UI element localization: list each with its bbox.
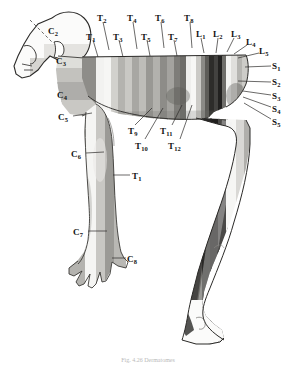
label-index: 2 xyxy=(219,33,222,40)
dermatome-label-s2: S2 xyxy=(272,78,280,87)
dermatome-label-t10: T10 xyxy=(135,142,148,151)
label-index: 8 xyxy=(134,258,137,265)
dermatome-label-c7: C7 xyxy=(73,228,83,237)
dermatome-label-t2: T2 xyxy=(97,14,106,23)
label-index: 2 xyxy=(55,30,58,37)
label-index: 1 xyxy=(138,175,141,182)
label-index: 3 xyxy=(119,36,122,43)
label-root: C xyxy=(127,254,134,264)
label-index: 11 xyxy=(166,130,172,137)
label-root: C xyxy=(73,227,80,237)
dermatome-label-c6: C6 xyxy=(71,150,81,159)
label-root: C xyxy=(48,26,55,36)
label-index: 7 xyxy=(174,36,177,43)
dermatome-figure: C2C3C4C5C6C7C8T1T2T3T4T5T6T7T8T9T10T11T1… xyxy=(0,0,296,367)
label-index: 4 xyxy=(133,17,136,24)
dermatome-label-t3: T3 xyxy=(113,33,122,42)
label-index: 5 xyxy=(147,36,150,43)
label-index: 3 xyxy=(277,95,280,102)
dermatome-label-l1: L1 xyxy=(196,30,205,39)
dermatome-label-s5: S5 xyxy=(272,118,280,127)
label-index: 5 xyxy=(65,116,68,123)
dermatome-label-l4: L4 xyxy=(246,38,255,47)
label-index: 4 xyxy=(277,108,280,115)
dermatome-label-t1: T1 xyxy=(86,33,95,42)
label-index: 3 xyxy=(63,60,66,67)
dermatome-label-t5: T5 xyxy=(141,33,150,42)
label-root: C xyxy=(57,90,64,100)
label-index: 3 xyxy=(237,33,240,40)
label-index: 6 xyxy=(161,17,164,24)
label-index: 4 xyxy=(252,41,255,48)
dermatome-label-c2: C2 xyxy=(48,27,58,36)
figure-caption: Fig. 4.26 Dermatomes xyxy=(0,357,296,363)
label-index: 5 xyxy=(277,121,280,128)
dermatome-label-c3: C3 xyxy=(56,57,66,66)
dermatome-label-t4: T4 xyxy=(127,14,136,23)
dermatome-label-c4: C4 xyxy=(57,91,67,100)
label-root: C xyxy=(58,112,65,122)
label-index: 1 xyxy=(202,33,205,40)
label-index: 12 xyxy=(174,145,181,152)
dermatome-label-t6: T6 xyxy=(155,14,164,23)
label-index: 6 xyxy=(78,153,81,160)
dermatome-label-t8: T8 xyxy=(184,14,193,23)
label-root: C xyxy=(56,56,63,66)
dermatome-label-l2: L2 xyxy=(213,30,222,39)
label-root: C xyxy=(71,149,78,159)
label-index: 10 xyxy=(141,145,148,152)
label-index: 5 xyxy=(265,50,268,57)
dermatome-label-l5: L5 xyxy=(259,47,268,56)
dermatome-label-tl1: T1 xyxy=(132,172,141,181)
dermatome-label-s4: S4 xyxy=(272,105,280,114)
label-index: 1 xyxy=(277,65,280,72)
label-index: 2 xyxy=(103,17,106,24)
label-index: 7 xyxy=(80,231,83,238)
dermatome-label-t7: T7 xyxy=(168,33,177,42)
dermatome-label-t12: T12 xyxy=(168,142,181,151)
label-index: 2 xyxy=(277,81,280,88)
dermatome-label-s3: S3 xyxy=(272,92,280,101)
label-index: 9 xyxy=(134,130,137,137)
label-index: 1 xyxy=(92,36,95,43)
dermatome-label-c5: C5 xyxy=(58,113,68,122)
label-index: 8 xyxy=(190,17,193,24)
dermatome-label-t11: T11 xyxy=(160,127,172,136)
dermatome-label-l3: L3 xyxy=(231,30,240,39)
dermatome-label-c8: C8 xyxy=(127,255,137,264)
dermatome-label-s1: S1 xyxy=(272,62,280,71)
label-index: 4 xyxy=(64,94,67,101)
dermatome-illustration xyxy=(0,0,296,367)
dermatome-label-t9: T9 xyxy=(128,127,137,136)
